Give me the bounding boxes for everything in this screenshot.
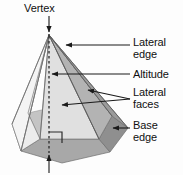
label-altitude: Altitude xyxy=(133,68,169,80)
label-lateral-edge: Lateral edge xyxy=(133,36,166,60)
apex-point xyxy=(48,34,50,36)
label-base-edge: Base edge xyxy=(133,119,158,143)
pyramid-solid xyxy=(12,34,128,163)
pyramid-diagram: Vertex Lateral edge Altitude Lateral fac… xyxy=(0,0,183,175)
label-lateral-faces: Lateral faces xyxy=(133,86,166,110)
label-vertex: Vertex xyxy=(24,2,55,14)
